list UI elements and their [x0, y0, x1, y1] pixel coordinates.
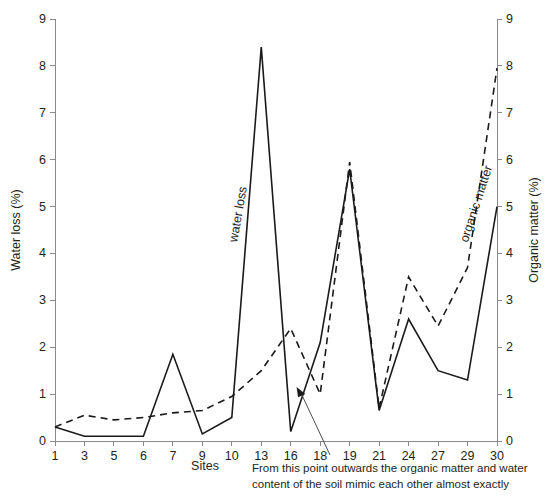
organic-matter-label: organic matter: [457, 164, 495, 244]
y-tick-label-left: 9: [39, 12, 46, 26]
y-axis-right: 0123456789 Organic matter (%): [497, 12, 541, 448]
annotation-line-2: content of the soil mimic each other alm…: [252, 478, 509, 490]
x-tick-label: 3: [81, 449, 88, 463]
y-tick-label-right: 3: [506, 293, 513, 307]
x-tick-label: 7: [169, 449, 176, 463]
y-tick-label-left: 2: [39, 340, 46, 354]
y-axis-left: 0123456789 Water loss (%): [9, 12, 55, 448]
x-axis-ticks: 13567910131618192124272930: [52, 441, 504, 463]
x-tick-label: 10: [225, 449, 239, 463]
y-tick-label-right: 0: [506, 434, 513, 448]
x-tick-label: 29: [461, 449, 475, 463]
y-axis-left-title: Water loss (%): [9, 189, 23, 271]
y-tick-label-left: 0: [39, 434, 46, 448]
x-tick-label: 19: [343, 449, 357, 463]
y-axis-left-ticks: 0123456789: [39, 12, 55, 448]
y-tick-label-left: 4: [39, 246, 46, 260]
x-tick-label: 18: [313, 449, 327, 463]
y-tick-label-left: 7: [39, 106, 46, 120]
y-axis-right-title: Organic matter (%): [527, 177, 541, 283]
annotation-leader: [294, 385, 330, 455]
y-tick-label-right: 9: [506, 12, 513, 26]
y-tick-label-left: 1: [39, 387, 46, 401]
y-tick-label-right: 5: [506, 200, 513, 214]
x-tick-label: 6: [140, 449, 147, 463]
x-tick-label: 21: [372, 449, 386, 463]
x-tick-label: 24: [402, 449, 416, 463]
series-group: [55, 47, 497, 436]
y-tick-label-right: 8: [506, 59, 513, 73]
y-tick-label-right: 2: [506, 340, 513, 354]
line-chart: 0123456789 Water loss (%) 0123456789 Org…: [0, 0, 552, 499]
x-tick-label: 30: [490, 449, 504, 463]
y-tick-label-right: 1: [506, 387, 513, 401]
y-tick-label-left: 3: [39, 293, 46, 307]
x-tick-label: 27: [431, 449, 445, 463]
y-tick-label-left: 5: [39, 200, 46, 214]
y-tick-label-left: 8: [39, 59, 46, 73]
leader-line: [301, 393, 330, 455]
y-tick-label-left: 6: [39, 153, 46, 167]
series-water-loss: [55, 47, 497, 436]
x-tick-label: 16: [284, 449, 298, 463]
y-axis-right-ticks: 0123456789: [497, 12, 513, 448]
x-axis-title: Sites: [191, 459, 219, 473]
x-tick-label: 1: [52, 449, 59, 463]
y-tick-label-right: 6: [506, 153, 513, 167]
y-tick-label-right: 7: [506, 106, 513, 120]
x-tick-label: 13: [254, 449, 268, 463]
chart-container: 0123456789 Water loss (%) 0123456789 Org…: [0, 0, 552, 499]
annotation-line-1: From this point outwards the organic mat…: [252, 462, 528, 474]
x-tick-label: 5: [110, 449, 117, 463]
y-tick-label-right: 4: [506, 246, 513, 260]
